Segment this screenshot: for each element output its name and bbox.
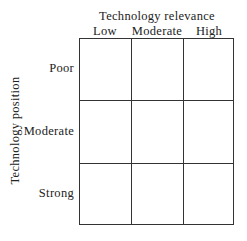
x-axis-title: Technology relevance <box>79 9 235 24</box>
row-label-moderate: Moderate <box>4 124 74 139</box>
grid-divider-row-2 <box>80 163 233 164</box>
row-label-strong: Strong <box>4 186 74 201</box>
grid-divider-col-1 <box>131 39 132 224</box>
column-label-moderate: Moderate <box>131 24 183 39</box>
column-label-high: High <box>183 24 235 39</box>
column-label-low: Low <box>79 24 131 39</box>
row-label-poor: Poor <box>4 61 74 76</box>
grid-divider-col-2 <box>183 39 184 224</box>
grid-divider-row-1 <box>80 100 233 101</box>
matrix-grid <box>79 38 234 225</box>
